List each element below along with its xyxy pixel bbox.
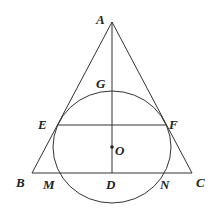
label-N: N [159,177,170,192]
segment-AB [32,22,112,173]
label-O: O [115,143,125,158]
label-C: C [196,175,205,190]
label-D: D [105,177,116,192]
label-A: A [95,12,105,27]
label-B: B [15,175,25,190]
center-point-O [110,145,114,149]
label-M: M [42,177,55,192]
geometry-diagram: A G E F O B M D N C [0,0,218,216]
label-F: F [168,117,178,132]
label-G: G [96,76,106,91]
label-E: E [37,117,47,132]
